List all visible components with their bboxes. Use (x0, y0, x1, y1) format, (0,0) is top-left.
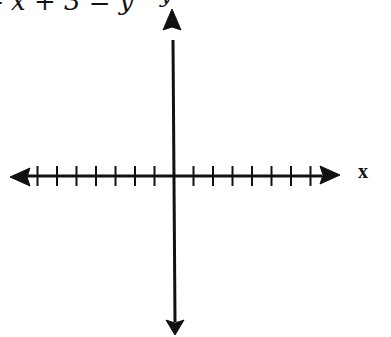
y-axis-down-arrow (166, 320, 184, 335)
coordinate-plane (0, 0, 391, 337)
y-axis (173, 40, 175, 322)
x-axis-right-arrow (320, 166, 340, 184)
y-axis-up-arrow (163, 9, 181, 30)
x-axis-left-arrow (10, 168, 30, 186)
